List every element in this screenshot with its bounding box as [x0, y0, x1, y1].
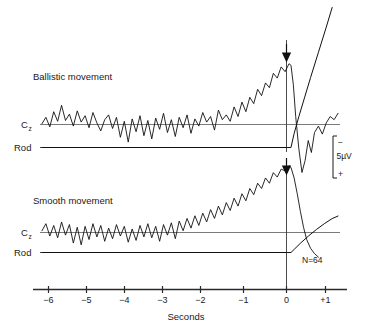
ballistic-channel-label: C	[21, 119, 28, 130]
x-tick-label--5: −5	[81, 295, 91, 305]
smooth-panel-title: Smooth movement	[33, 195, 113, 206]
x-tick-label--1: −1	[238, 295, 248, 305]
x-tick-label--3: −3	[157, 295, 167, 305]
smooth-channel-subscript: z	[29, 233, 32, 240]
ballistic-panel-title: Ballistic movement	[33, 71, 113, 82]
ballistic-rod-label: Rod	[14, 142, 31, 153]
eeg-figure: Ballistic movement C z Rod Smooth moveme…	[0, 0, 373, 325]
scale-bar-negative-sign: −	[338, 137, 343, 147]
smooth-rod-label: Rod	[14, 247, 31, 258]
scale-bar-value: 5µV	[337, 151, 353, 161]
x-axis-title: Seconds	[168, 311, 205, 322]
smooth-channel-label: C	[21, 227, 28, 238]
ballistic-channel-subscript: z	[29, 125, 32, 132]
scale-bar-positive-sign: +	[338, 169, 343, 179]
figure-background	[0, 0, 373, 325]
x-tick-label--2: −2	[195, 295, 205, 305]
x-tick-label-+1: +1	[320, 295, 330, 305]
trial-count-label: N=64	[302, 255, 323, 265]
x-tick-label-0: 0	[284, 295, 289, 305]
x-tick-label--4: −4	[119, 295, 129, 305]
x-tick-label--6: −6	[43, 295, 53, 305]
